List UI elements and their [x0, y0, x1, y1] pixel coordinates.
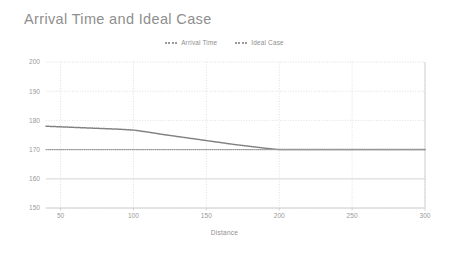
x-axis-title: Distance [0, 229, 449, 236]
data-series-lines [46, 126, 425, 149]
x-tick-label: 300 [419, 212, 430, 219]
y-axis-tick-labels: 200190180170160150 [29, 58, 40, 211]
y-tick-label: 170 [29, 146, 40, 153]
grid-lines [46, 62, 425, 208]
y-tick-label: 200 [29, 58, 40, 65]
x-tick-label: 200 [274, 212, 285, 219]
axis-lines [46, 62, 425, 211]
x-tick-label: 150 [201, 212, 212, 219]
x-tick-label: 100 [128, 212, 139, 219]
y-tick-label: 190 [29, 88, 40, 95]
plot-area: 200190180170160150 50100150200250300 [0, 0, 449, 253]
x-tick-label: 250 [347, 212, 358, 219]
y-tick-label: 150 [29, 204, 40, 211]
x-axis-tick-labels: 50100150200250300 [57, 212, 431, 219]
y-tick-label: 180 [29, 117, 40, 124]
y-tick-label: 160 [29, 175, 40, 182]
chart-container: Arrival Time and Ideal Case Arrival Time… [0, 0, 449, 253]
x-tick-label: 50 [57, 212, 65, 219]
series-line-arrival-time [46, 126, 425, 149]
